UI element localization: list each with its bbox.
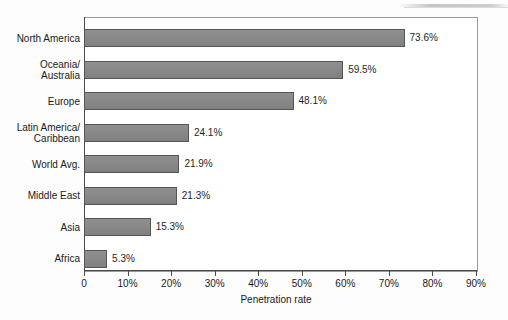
category-label-wrapper: Middle East (0, 190, 80, 202)
category-label-wrapper: North America (0, 33, 80, 45)
x-axis-tick-label: 90% (466, 278, 486, 290)
x-axis-tick (171, 271, 172, 276)
x-axis-tick-label: 60% (335, 278, 355, 290)
category-label: Middle East (0, 190, 80, 202)
bar-1 (84, 29, 405, 47)
x-axis-tick-label: 30% (205, 278, 225, 290)
x-axis-tick (258, 271, 259, 276)
category-label: North America (0, 33, 80, 45)
category-label-wrapper: Asia (0, 222, 80, 234)
category-label: Oceania/ Australia (0, 59, 80, 82)
bar-7 (84, 218, 151, 236)
category-label-wrapper: Latin America/ Caribbean (0, 122, 80, 145)
bar-value-label: 48.1% (299, 95, 327, 107)
category-label: Asia (0, 222, 80, 234)
category-label: Africa (0, 253, 80, 265)
category-label: Latin America/ Caribbean (0, 122, 80, 145)
scan-artifact-line (404, 7, 508, 8)
bar-value-label: 15.3% (156, 221, 184, 233)
x-axis-tick-label: 80% (422, 278, 442, 290)
bar-5 (84, 155, 179, 173)
x-axis-tick (432, 271, 433, 276)
bar-value-label: 5.3% (112, 253, 135, 265)
x-axis-tick (389, 271, 390, 276)
x-axis-tick-label: 50% (292, 278, 312, 290)
bar-value-label: 24.1% (194, 127, 222, 139)
x-axis-tick-label: 0 (81, 278, 87, 290)
x-axis-title: Penetration rate (0, 294, 508, 305)
x-axis-tick-label: 10% (118, 278, 138, 290)
bar-value-label: 21.9% (184, 158, 212, 170)
x-axis-title-text: Penetration rate (240, 294, 311, 305)
bar-8 (84, 250, 107, 268)
x-axis-tick-label: 40% (248, 278, 268, 290)
category-label-wrapper: World Avg. (0, 159, 80, 171)
x-axis-tick (128, 271, 129, 276)
category-label-wrapper: Africa (0, 253, 80, 265)
x-axis-tick (84, 271, 85, 276)
category-label-wrapper: Oceania/ Australia (0, 59, 80, 82)
category-label: Europe (0, 96, 80, 108)
x-axis-tick-label: 70% (379, 278, 399, 290)
x-axis-tick (215, 271, 216, 276)
bar-value-label: 21.3% (182, 190, 210, 202)
scan-artifact-streak (398, 4, 508, 7)
bar-2 (84, 61, 343, 79)
bar-4 (84, 124, 189, 142)
x-axis-tick (345, 271, 346, 276)
category-label: World Avg. (0, 159, 80, 171)
bar-value-label: 73.6% (410, 32, 438, 44)
x-axis-tick-label: 20% (161, 278, 181, 290)
bar-3 (84, 92, 294, 110)
chart-page: 73.6%59.5%48.1%24.1%21.9%21.3%15.3%5.3% … (0, 0, 508, 320)
bar-value-label: 59.5% (348, 64, 376, 76)
category-label-wrapper: Europe (0, 96, 80, 108)
x-axis-tick (302, 271, 303, 276)
x-axis-line (84, 270, 477, 271)
bar-6 (84, 187, 177, 205)
x-axis-tick (476, 271, 477, 276)
